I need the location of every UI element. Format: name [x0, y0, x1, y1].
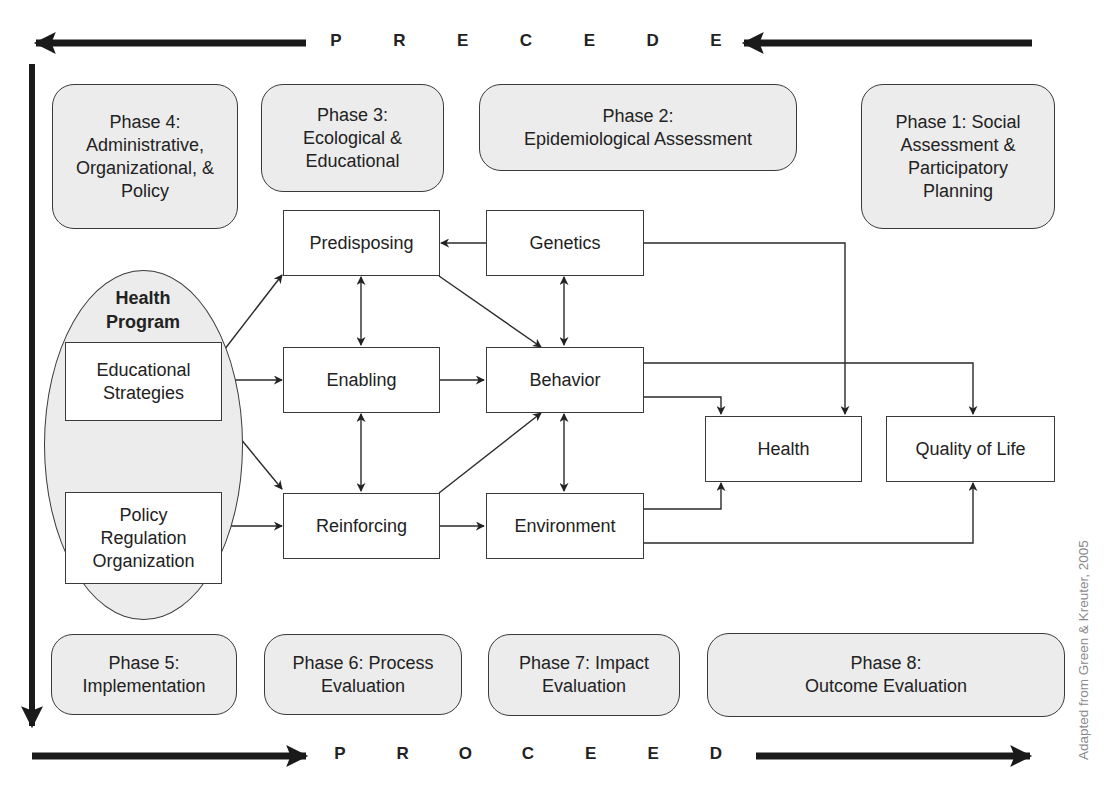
enabling-box: Enabling [283, 347, 440, 413]
proceed-letter: E [643, 744, 663, 768]
proceed-letter: E [581, 744, 601, 768]
environment-box: Environment [486, 493, 644, 559]
precede-banner: P R E C E D E [326, 31, 726, 55]
edge-behavior-qol [643, 363, 973, 414]
precede-letter: P [326, 31, 346, 55]
behavior-box: Behavior [486, 347, 644, 413]
precede-letter: D [643, 31, 663, 55]
precede-letter: E [579, 31, 599, 55]
edge-educational-predisposing [221, 275, 282, 354]
genetics-box: Genetics [486, 210, 644, 276]
quality-of-life-box: Quality of Life [886, 416, 1055, 482]
proceed-letter: R [393, 744, 413, 768]
edge-predisposing-behavior [439, 276, 541, 347]
health-program-title: Health Program [66, 286, 220, 334]
phase-4-box: Phase 4: Administrative, Organizational,… [52, 84, 238, 229]
proceed-letter: O [455, 744, 475, 768]
precede-letter: E [453, 31, 473, 55]
precede-letter: R [389, 31, 409, 55]
health-box: Health [705, 416, 862, 482]
edge-genetics-health [643, 243, 845, 414]
precede-letter: E [706, 31, 726, 55]
phase-1-box: Phase 1: Social Assessment & Participato… [861, 84, 1055, 229]
educational-strategies-box: Educational Strategies [65, 342, 222, 421]
edge-behavior-health [643, 397, 721, 414]
reinforcing-box: Reinforcing [283, 493, 440, 559]
phase-5-box: Phase 5: Implementation [51, 634, 237, 715]
proceed-letter: C [518, 744, 538, 768]
edge-reinforcing-behavior [439, 413, 541, 493]
phase-3-box: Phase 3: Ecological & Educational [261, 84, 444, 192]
policy-regulation-organization-box: Policy Regulation Organization [65, 492, 222, 584]
precede-letter: C [516, 31, 536, 55]
source-credit: Adapted from Green & Kreuter, 2005 [1076, 540, 1091, 760]
edge-environment-qol [643, 483, 973, 543]
phase-7-box: Phase 7: Impact Evaluation [488, 634, 680, 716]
proceed-letter: D [706, 744, 726, 768]
edge-environment-health [643, 483, 721, 509]
phase-8-box: Phase 8: Outcome Evaluation [707, 633, 1065, 717]
proceed-banner: P R O C E E D [330, 744, 726, 768]
proceed-letter: P [330, 744, 350, 768]
phase-6-box: Phase 6: Process Evaluation [264, 634, 462, 715]
phase-2-box: Phase 2: Epidemiological Assessment [479, 84, 797, 171]
predisposing-box: Predisposing [283, 210, 440, 276]
